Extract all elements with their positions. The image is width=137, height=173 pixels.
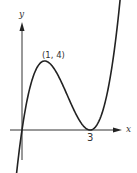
x-axis-arrow-icon xyxy=(113,128,122,133)
y-axis-label: y xyxy=(19,10,24,19)
cubic-curve xyxy=(14,0,122,173)
x-axis-label: x xyxy=(126,125,131,134)
root-label: 3 xyxy=(87,133,93,143)
max-point-label: (1, 4) xyxy=(42,51,65,60)
plot-canvas xyxy=(0,0,137,173)
y-axis-arrow-icon xyxy=(20,22,25,31)
